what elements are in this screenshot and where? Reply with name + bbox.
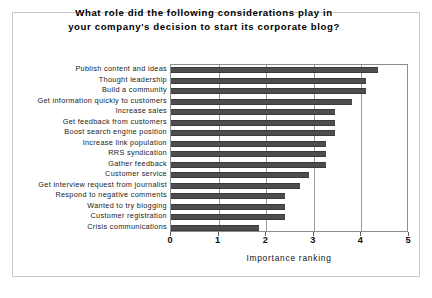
tick-label-4: 4: [358, 235, 363, 245]
bar: [171, 120, 335, 126]
category-label: RRS syndication: [8, 148, 167, 159]
bar-row: [171, 160, 409, 171]
bar-row: [171, 76, 409, 87]
bar: [171, 141, 326, 147]
category-label: Respond to negative comments: [8, 190, 167, 201]
bar: [171, 109, 335, 115]
bar: [171, 204, 285, 210]
tick-label-2: 2: [263, 235, 268, 245]
category-label: Increase link population: [8, 138, 167, 149]
tick-label-1: 1: [215, 235, 220, 245]
category-label: Get information quickly to customers: [8, 96, 167, 107]
tick-label-3: 3: [310, 235, 315, 245]
bar: [171, 162, 326, 168]
chart-title: What role did the following consideratio…: [24, 6, 384, 34]
bar: [171, 88, 366, 94]
bar-row: [171, 65, 409, 76]
bar: [171, 99, 352, 105]
plot-area: [170, 64, 408, 232]
bar-row: [171, 97, 409, 108]
bar-row: [171, 139, 409, 150]
bar: [171, 67, 378, 73]
bar: [171, 151, 326, 157]
x-axis-tick-labels: 012345: [170, 235, 408, 247]
bar-row: [171, 149, 409, 160]
bar: [171, 225, 259, 231]
tick-label-0: 0: [167, 235, 172, 245]
category-label: Get feedback from customers: [8, 117, 167, 128]
bar: [171, 193, 285, 199]
bar-row: [171, 202, 409, 213]
bar-row: [171, 181, 409, 192]
bar-row: [171, 118, 409, 129]
bar-row: [171, 191, 409, 202]
category-label: Thought leadership: [8, 75, 167, 86]
bar: [171, 130, 335, 136]
tick-label-5: 5: [405, 235, 410, 245]
x-axis-title: Importance ranking: [170, 253, 408, 263]
bar-row: [171, 86, 409, 97]
category-label: Gather feedback: [8, 159, 167, 170]
bar-series: [171, 65, 407, 231]
bar-row: [171, 107, 409, 118]
category-label: Wanted to try blogging: [8, 201, 167, 212]
bar-row: [171, 128, 409, 139]
category-label: Crisis communications: [8, 222, 167, 233]
bar: [171, 172, 309, 178]
bar: [171, 78, 366, 84]
category-label: Customer registration: [8, 211, 167, 222]
category-label: Boost search engine position: [8, 127, 167, 138]
category-label: Get interview request from journalist: [8, 180, 167, 191]
category-label: Customer service: [8, 169, 167, 180]
chart-title-line-1: What role did the following consideratio…: [24, 6, 384, 20]
category-axis-labels: Publish content and ideasThought leaders…: [8, 64, 167, 232]
bar: [171, 183, 300, 189]
category-label: Increase sales: [8, 106, 167, 117]
category-label: Publish content and ideas: [8, 64, 167, 75]
bar-row: [171, 212, 409, 223]
chart-title-line-2: your company's decision to start its cor…: [24, 20, 384, 34]
bar-row: [171, 170, 409, 181]
bar: [171, 214, 285, 220]
category-label: Build a community: [8, 85, 167, 96]
